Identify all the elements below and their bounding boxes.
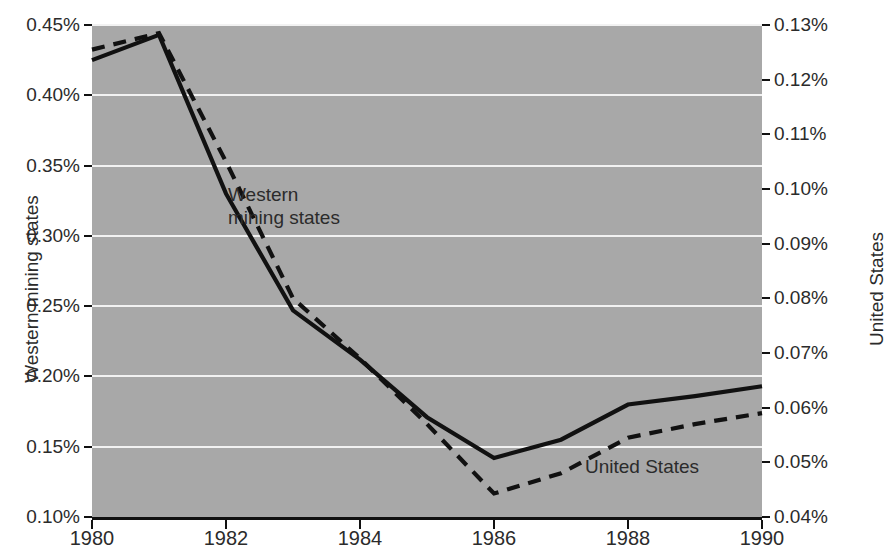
y-axis-right-tick-label: 0.08% bbox=[774, 287, 828, 309]
gridline bbox=[92, 24, 762, 26]
y-axis-left-tick-label: 0.45% bbox=[26, 14, 80, 36]
y-axis-right-tick-label: 0.12% bbox=[774, 69, 828, 91]
y-axis-right-tick bbox=[762, 79, 770, 81]
gridline bbox=[92, 165, 762, 167]
y-axis-left-tick-label: 0.40% bbox=[26, 84, 80, 106]
y-axis-right-tick bbox=[762, 243, 770, 245]
y-axis-right-labels: 0.04%0.05%0.06%0.07%0.08%0.09%0.10%0.11%… bbox=[774, 0, 864, 556]
x-axis-tick-label: 1984 bbox=[338, 527, 383, 550]
y-axis-right-tick bbox=[762, 352, 770, 354]
y-axis-right-tick bbox=[762, 188, 770, 190]
y-axis-left-tick bbox=[84, 516, 92, 518]
y-axis-right-tick bbox=[762, 407, 770, 409]
gridline bbox=[92, 235, 762, 237]
plot-area-background bbox=[92, 25, 762, 517]
y-axis-left-tick-label: 0.10% bbox=[26, 506, 80, 528]
y-axis-left-tick-label: 0.15% bbox=[26, 436, 80, 458]
y-axis-right-tick-label: 0.11% bbox=[774, 123, 826, 145]
y-axis-left-tick bbox=[84, 446, 92, 448]
y-axis-right-tick bbox=[762, 133, 770, 135]
x-axis-tick-label: 1988 bbox=[606, 527, 651, 550]
y-axis-left-tick bbox=[84, 165, 92, 167]
y-axis-left-tick bbox=[84, 305, 92, 307]
y-axis-left-tick bbox=[84, 235, 92, 237]
x-axis-tick-label: 1982 bbox=[204, 527, 249, 550]
y-axis-right-title: United States bbox=[866, 169, 888, 409]
x-axis-line bbox=[92, 517, 762, 520]
y-axis-left-tick bbox=[84, 24, 92, 26]
y-axis-right-tick-label: 0.06% bbox=[774, 397, 828, 419]
gridline bbox=[92, 446, 762, 448]
gridline bbox=[92, 375, 762, 377]
y-axis-right-tick bbox=[762, 461, 770, 463]
y-axis-right-tick bbox=[762, 516, 770, 518]
gridline bbox=[92, 305, 762, 307]
y-axis-left-tick bbox=[84, 94, 92, 96]
y-axis-right-tick bbox=[762, 297, 770, 299]
y-axis-right-tick-label: 0.07% bbox=[774, 342, 828, 364]
annotation-western-mining-states: Western mining states bbox=[228, 183, 340, 229]
y-axis-right-tick bbox=[762, 24, 770, 26]
y-axis-right-tick-label: 0.09% bbox=[774, 233, 828, 255]
y-axis-right-tick-label: 0.05% bbox=[774, 451, 828, 473]
x-axis-tick-label: 1986 bbox=[472, 527, 517, 550]
x-axis-tick-label: 1990 bbox=[740, 527, 785, 550]
y-axis-right-tick-label: 0.10% bbox=[774, 178, 828, 200]
y-axis-left-tick bbox=[84, 375, 92, 377]
y-axis-left-title: Western mining states bbox=[21, 169, 43, 409]
y-axis-right-tick-label: 0.04% bbox=[774, 506, 828, 528]
x-axis-tick-label: 1980 bbox=[70, 527, 115, 550]
annotation-united-states: United States bbox=[585, 455, 699, 478]
gridline bbox=[92, 94, 762, 96]
y-axis-right-tick-label: 0.13% bbox=[774, 14, 828, 36]
